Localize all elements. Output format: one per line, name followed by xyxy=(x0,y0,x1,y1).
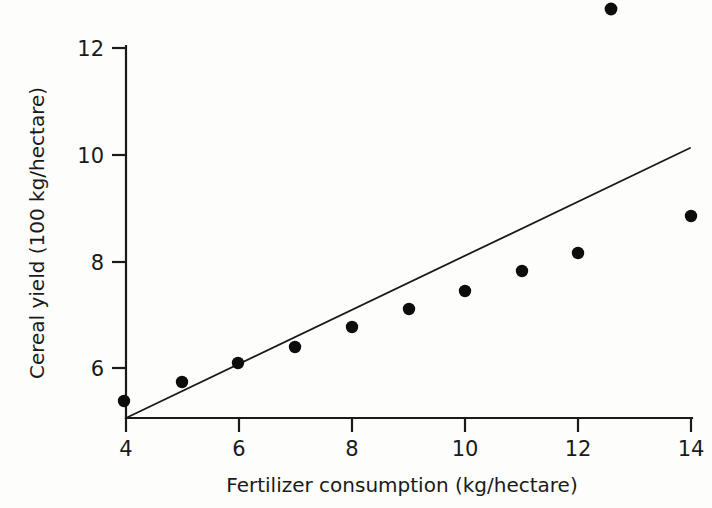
y-axis-ticks xyxy=(112,48,126,368)
y-axis-title: Cereal yield (100 kg/hectare) xyxy=(25,87,49,379)
y-axis-tick-labels: 12 10 8 6 xyxy=(77,37,104,381)
x-tick-label-6: 6 xyxy=(232,437,245,461)
regression-trend-line xyxy=(126,148,690,418)
data-point xyxy=(118,395,130,407)
x-axis-ticks xyxy=(126,418,691,432)
y-tick-label-8: 8 xyxy=(91,251,104,275)
data-point xyxy=(516,265,528,277)
data-point xyxy=(289,341,301,353)
data-point xyxy=(403,303,415,315)
x-tick-label-14: 14 xyxy=(678,437,705,461)
x-tick-label-12: 12 xyxy=(565,437,592,461)
y-tick-label-12: 12 xyxy=(77,37,104,61)
x-tick-label-8: 8 xyxy=(345,437,358,461)
data-point xyxy=(176,376,188,388)
data-point xyxy=(685,210,697,222)
x-tick-label-10: 10 xyxy=(452,437,479,461)
data-point xyxy=(572,247,584,259)
data-point xyxy=(346,321,358,333)
x-axis-tick-labels: 4 6 8 10 12 14 xyxy=(119,437,704,461)
plot-canvas: 12 10 8 6 4 6 8 10 12 14 xyxy=(0,0,712,508)
data-point-group xyxy=(118,3,697,408)
data-point-outlier xyxy=(605,3,618,16)
y-tick-label-10: 10 xyxy=(77,144,104,168)
x-axis-title: Fertilizer consumption (kg/hectare) xyxy=(226,473,577,497)
data-point xyxy=(459,285,471,297)
scatter-plot-figure: 12 10 8 6 4 6 8 10 12 14 xyxy=(0,0,712,508)
x-tick-label-4: 4 xyxy=(119,437,132,461)
y-tick-label-6: 6 xyxy=(91,357,104,381)
data-point xyxy=(232,357,244,369)
